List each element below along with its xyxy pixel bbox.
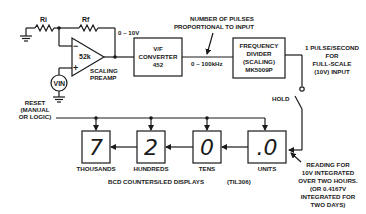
counter-tens: 0 TENS	[193, 131, 221, 172]
label-units: UNITS	[258, 165, 277, 172]
reading-note-line2: 10V INTEGRATED	[302, 169, 355, 176]
reading-note-line1: READING FOR	[306, 161, 350, 168]
resistor-ri	[35, 25, 54, 31]
preamp-label-line1: SCALING	[90, 67, 118, 74]
digit-units: .0	[257, 135, 278, 160]
divider-line2: DIVIDER	[246, 50, 272, 57]
vf-output-range: 0 – 100kHz	[191, 60, 223, 67]
integrator-block-diagram: Ri Rf − + 52k SCALING PREAMP VIN 0 – 10V…	[0, 0, 366, 214]
divider-line4: MK5009P	[245, 66, 273, 73]
reading-note-arrow	[291, 153, 301, 162]
counters-caption: BCD COUNTERS/LED DISPLAYS	[108, 178, 204, 185]
output-note-line3: FULL-SCALE	[313, 60, 352, 67]
counter-thousands: 7 THOUSANDS	[76, 131, 115, 172]
gain-label: 52k	[79, 53, 91, 60]
divider-line1: FREQUENCY	[240, 42, 280, 49]
counter-units: .0 UNITS	[248, 131, 286, 172]
reset-line3: OR LOGIC)	[19, 113, 52, 120]
minus-sign: −	[73, 41, 78, 51]
counter-hundreds: 2 HUNDREDS	[133, 131, 168, 172]
reading-note-line3: OVER TWO HOURS.	[298, 177, 358, 184]
display-part: (TIL306)	[227, 178, 251, 185]
output-note-line4: (10V) INPUT	[314, 68, 350, 75]
label-thousands: THOUSANDS	[76, 165, 115, 172]
pulses-note-line1: NUMBER OF PULSES	[190, 15, 254, 22]
hold-switch-lever	[295, 96, 302, 109]
vf-line3: 452	[153, 61, 164, 68]
digit-tens: 0	[200, 135, 214, 160]
vf-line1: V/F	[153, 45, 163, 52]
hold-switch-contact	[300, 87, 304, 91]
digit-thousands: 7	[89, 135, 103, 160]
vin-label: VIN	[54, 80, 66, 87]
divider-line3: (SCALING)	[243, 58, 275, 65]
preamp-label-line2: PREAMP	[90, 74, 116, 81]
label-tens: TENS	[199, 165, 216, 172]
pulses-note-line2: PROPORTIONAL TO INPUT	[174, 23, 254, 30]
hold-label: HOLD	[272, 95, 290, 102]
reset-line1: RESET	[25, 99, 46, 106]
label-hundreds: HUNDREDS	[133, 165, 168, 172]
plus-sign: +	[73, 63, 78, 73]
reading-note-line5: INTEGRATED FOR	[301, 193, 356, 200]
preamp-output-range: 0 – 10V	[118, 29, 140, 36]
reading-note-line4: (OR 0.4167V	[310, 185, 347, 192]
digit-hundreds: 2	[144, 135, 158, 160]
output-note-line2: FOR	[325, 52, 339, 59]
reset-line2: (MANUAL	[21, 106, 50, 113]
junction-dot	[113, 55, 117, 59]
vf-line2: CONVERTER	[139, 53, 178, 60]
resistor-rf	[79, 25, 98, 31]
ground-symbol-vin	[53, 97, 65, 102]
ground-symbol-left	[20, 28, 32, 41]
rf-label: Rf	[82, 16, 90, 23]
output-note-line1: 1 PULSE/SECOND	[305, 44, 360, 51]
reading-note-line6: TWO DAYS)	[311, 201, 346, 208]
ri-label: Ri	[40, 16, 47, 23]
pulses-note-arrow	[207, 33, 213, 54]
